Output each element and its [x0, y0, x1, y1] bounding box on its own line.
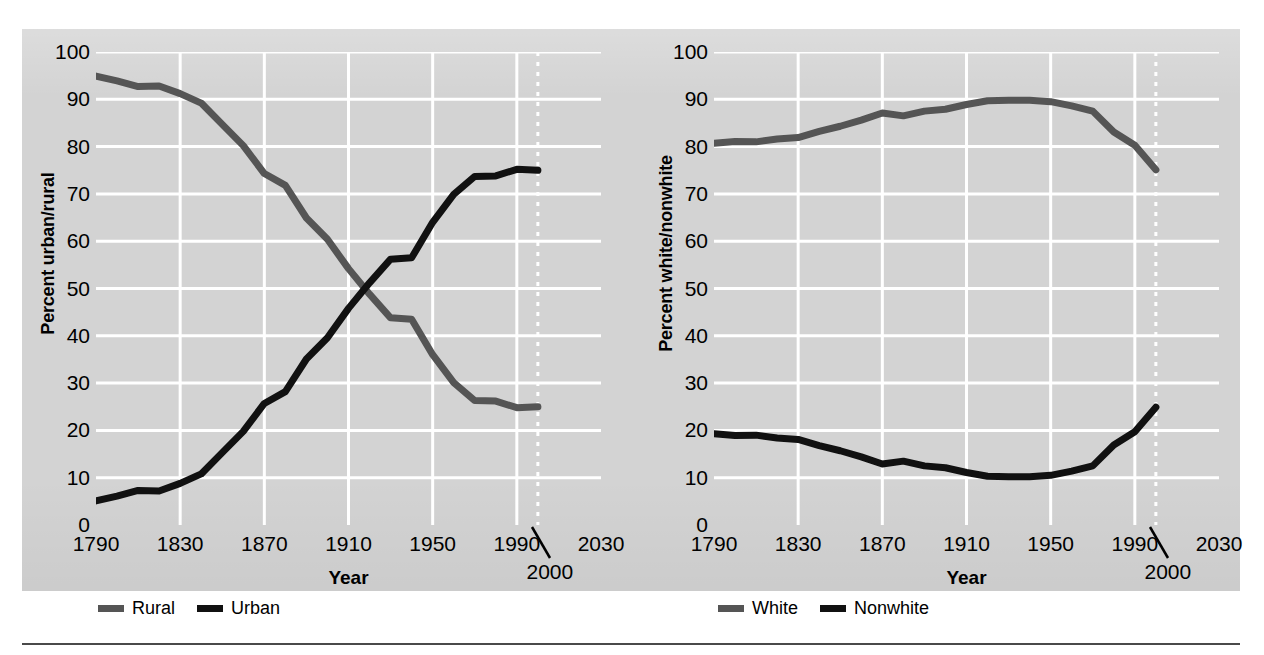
x-tick-label: 1870	[859, 532, 906, 556]
legend-label-nonwhite: Nonwhite	[854, 599, 929, 617]
y-tick-label: 20	[664, 419, 708, 440]
figure-root: Percent urban/rural 01020304050607080901…	[0, 0, 1264, 655]
legend-label-urban: Urban	[231, 599, 280, 617]
y-tick-label: 60	[46, 230, 90, 251]
x-tick-label: 1990	[493, 532, 540, 556]
y-tick-label: 90	[46, 88, 90, 109]
legend-white-nonwhite: White Nonwhite	[718, 599, 929, 617]
legend-item: Rural	[98, 599, 175, 617]
x-tick-label: 1830	[157, 532, 204, 556]
legend-urban-rural: Rural Urban	[98, 599, 280, 617]
legend-label-rural: Rural	[132, 599, 175, 617]
x-tick-label: 1990	[1111, 532, 1158, 556]
callout-label-2000: 2000	[1145, 560, 1192, 584]
x-tick-label: 1910	[943, 532, 990, 556]
x-tick-label: 2030	[1196, 532, 1243, 556]
y-tick-label: 60	[664, 230, 708, 251]
y-tick-label: 30	[46, 372, 90, 393]
y-tick-label: 20	[46, 419, 90, 440]
y-tick-label: 50	[46, 278, 90, 299]
y-tick-label: 40	[46, 325, 90, 346]
y-tick-label: 10	[664, 467, 708, 488]
y-tick-labels-urban-rural: 0102030405060708090100	[34, 52, 90, 525]
callout-label-2000: 2000	[527, 560, 574, 584]
legend-row: Rural Urban White Nonwhite	[0, 597, 1264, 633]
y-tick-label: 70	[46, 183, 90, 204]
y-tick-label: 10	[46, 467, 90, 488]
y-tick-label: 80	[46, 136, 90, 157]
plot-area-white-nonwhite	[714, 52, 1219, 525]
chart-white-nonwhite: Percent white/nonwhite 01020304050607080…	[640, 29, 1240, 591]
x-axis-title-white-nonwhite: Year	[714, 567, 1219, 589]
series-line-white	[714, 100, 1156, 170]
y-tick-label: 100	[46, 41, 90, 62]
legend-swatch-urban	[197, 605, 223, 612]
legend-item: White	[718, 599, 798, 617]
y-tick-label: 70	[664, 183, 708, 204]
x-axis-title-urban-rural: Year	[96, 567, 601, 589]
series-line-nonwhite	[714, 407, 1156, 477]
legend-item: Nonwhite	[820, 599, 929, 617]
y-tick-label: 50	[664, 278, 708, 299]
y-tick-label: 30	[664, 372, 708, 393]
x-tick-label: 1830	[775, 532, 822, 556]
y-tick-label: 100	[664, 41, 708, 62]
x-tick-label: 1790	[691, 532, 738, 556]
x-tick-label: 1950	[1027, 532, 1074, 556]
x-tick-label: 2030	[578, 532, 625, 556]
legend-swatch-nonwhite	[820, 605, 846, 612]
legend-label-white: White	[752, 599, 798, 617]
plot-svg-urban-rural	[96, 52, 601, 525]
plot-svg-white-nonwhite	[714, 52, 1219, 525]
y-tick-label: 80	[664, 136, 708, 157]
chart-urban-rural: Percent urban/rural 01020304050607080901…	[22, 29, 622, 591]
bottom-divider-rule	[22, 643, 1240, 645]
plot-area-urban-rural	[96, 52, 601, 525]
x-tick-label: 1870	[241, 532, 288, 556]
x-tick-label: 1790	[73, 532, 120, 556]
y-tick-labels-white-nonwhite: 0102030405060708090100	[652, 52, 708, 525]
y-tick-label: 40	[664, 325, 708, 346]
y-tick-label: 90	[664, 88, 708, 109]
legend-swatch-rural	[98, 605, 124, 612]
x-tick-label: 1950	[409, 532, 456, 556]
legend-swatch-white	[718, 605, 744, 612]
legend-item: Urban	[197, 599, 280, 617]
x-tick-label: 1910	[325, 532, 372, 556]
